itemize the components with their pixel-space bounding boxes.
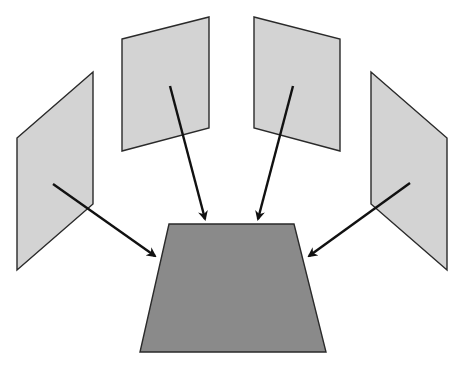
target-plane [140, 224, 326, 352]
source-plane-far-left [17, 72, 93, 270]
source-plane-center-left [122, 17, 209, 151]
projection-diagram [0, 0, 465, 369]
source-plane-center-right [254, 17, 340, 151]
source-plane-far-right [371, 72, 447, 270]
